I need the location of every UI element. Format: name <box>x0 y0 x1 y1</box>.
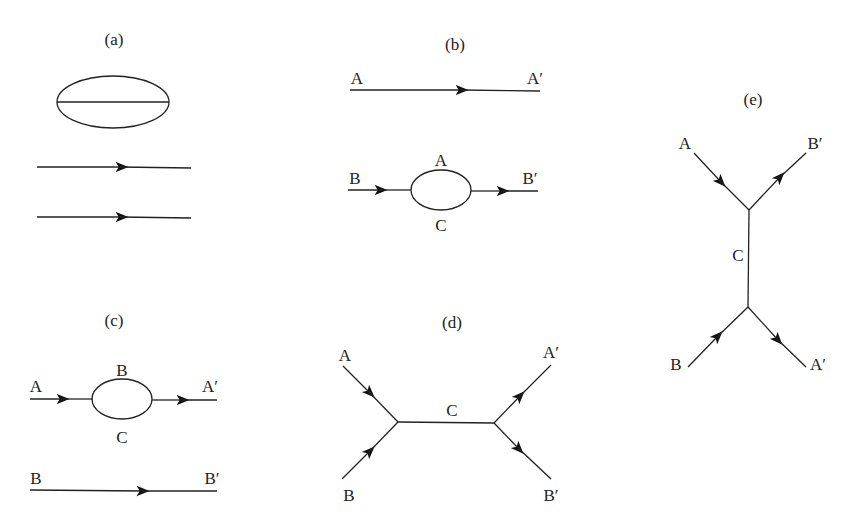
label-loop-A: A <box>435 151 448 170</box>
self-energy-loop <box>92 379 152 419</box>
diagram-b-title: (b) <box>445 35 465 54</box>
label-A: A <box>30 377 43 396</box>
diagram-c-title: (c) <box>105 311 124 330</box>
label-B: B <box>349 169 360 188</box>
label-A-prime: A′ <box>202 377 218 396</box>
label-B: B <box>670 355 681 374</box>
label-loop-C: C <box>116 428 127 447</box>
label-A-prime: A′ <box>543 343 559 362</box>
label-B-prime: B′ <box>807 134 822 153</box>
arrow-icon <box>343 366 370 393</box>
label-B: B <box>30 469 41 488</box>
diagram-a: (a) <box>37 30 191 218</box>
label-C: C <box>732 246 743 265</box>
arrow-icon <box>494 396 520 423</box>
self-energy-loop <box>411 170 471 210</box>
feynman-diagrams-figure: (a) (b) A A′ B B′ A C (c) A A′ B C B <box>0 0 862 522</box>
label-A: A <box>679 134 692 153</box>
propagator-line <box>460 90 540 91</box>
propagator-line <box>776 338 806 367</box>
diagram-a-title: (a) <box>105 30 124 49</box>
arrow-icon <box>688 336 718 367</box>
arrow-icon <box>694 153 721 182</box>
propagator-line <box>778 153 806 179</box>
label-loop-B: B <box>116 361 127 380</box>
diagram-d-title: (d) <box>442 313 462 332</box>
arrow-icon <box>748 307 778 340</box>
propagator-line <box>517 447 551 479</box>
diagram-d: (d) A B A′ B′ C <box>339 313 559 505</box>
propagator-line <box>368 391 398 422</box>
arrow-icon <box>494 423 519 449</box>
label-A-prime: A′ <box>810 355 826 374</box>
label-A: A <box>339 346 352 365</box>
propagator-line <box>716 307 748 338</box>
arrow-icon <box>30 490 143 491</box>
label-C: C <box>446 401 457 420</box>
propagator-C <box>748 210 749 307</box>
label-A: A <box>351 69 364 88</box>
propagator-line <box>120 167 191 168</box>
label-B-prime: B′ <box>543 486 558 505</box>
propagator-C <box>398 422 494 423</box>
diagram-e: (e) A B′ B A′ C <box>670 90 826 374</box>
arrow-icon <box>749 177 780 210</box>
label-B-prime: B′ <box>204 469 219 488</box>
propagator-line <box>368 422 398 453</box>
diagram-c: (c) A A′ B C B B′ <box>30 311 220 491</box>
label-A-prime: A′ <box>527 69 543 88</box>
label-loop-C: C <box>435 216 446 235</box>
diagram-b: (b) A A′ B B′ A C <box>348 35 543 235</box>
diagram-e-title: (e) <box>744 90 763 109</box>
arrow-icon <box>342 451 370 479</box>
propagator-line <box>719 180 749 210</box>
label-B: B <box>343 486 354 505</box>
label-B-prime: B′ <box>522 169 537 188</box>
propagator-line <box>518 365 551 398</box>
propagator-line <box>120 217 191 218</box>
